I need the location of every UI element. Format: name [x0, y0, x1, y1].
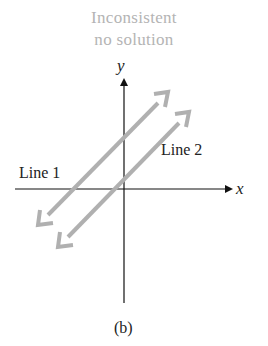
- line-2-label: Line 2: [161, 141, 202, 159]
- line-1: [38, 92, 168, 225]
- figure-caption: (b): [114, 319, 133, 337]
- x-axis-label: x: [236, 179, 244, 199]
- line-1-label: Line 1: [19, 164, 60, 182]
- y-axis-label: y: [117, 56, 125, 76]
